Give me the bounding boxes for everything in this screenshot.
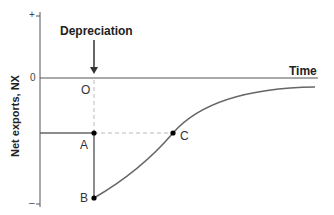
minus-tick-label: – bbox=[29, 197, 35, 208]
y-axis-label-text: Net exports, NX bbox=[9, 75, 21, 157]
y-axis-label: Net exports, NX bbox=[9, 61, 21, 171]
point-c-label: C bbox=[180, 129, 189, 143]
x-axis-label: Time bbox=[289, 64, 317, 78]
point-b-marker bbox=[91, 195, 96, 200]
point-c-marker bbox=[170, 130, 175, 135]
point-o-label: O bbox=[81, 83, 90, 97]
zero-tick-label: 0 bbox=[30, 72, 36, 83]
point-a-marker bbox=[91, 130, 96, 135]
point-a-label: A bbox=[80, 138, 88, 152]
depreciation-label: Depreciation bbox=[60, 24, 133, 38]
j-curve-chart bbox=[0, 0, 334, 215]
j-curve-line bbox=[94, 87, 315, 198]
point-b-label: B bbox=[80, 191, 88, 205]
depreciation-arrow-head bbox=[90, 67, 98, 74]
plus-tick-label: + bbox=[29, 9, 35, 20]
